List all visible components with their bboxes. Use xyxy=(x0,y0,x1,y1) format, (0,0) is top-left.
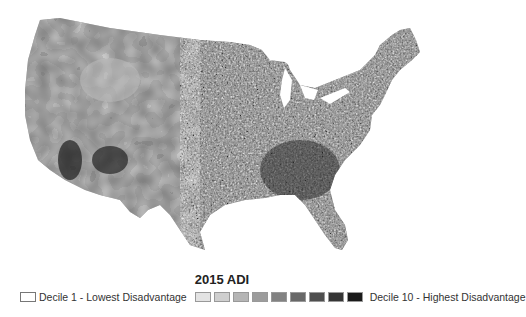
legend-swatch-decile-7 xyxy=(290,292,306,302)
decile-legend: Decile 1 - Lowest Disadvantage Decile 10… xyxy=(20,290,526,304)
map-title: 2015 ADI xyxy=(0,272,444,287)
legend-swatch-decile-8 xyxy=(309,292,325,302)
legend-high-label: Decile 10 - Highest Disadvantage xyxy=(370,291,526,303)
legend-swatch-decile-3 xyxy=(214,292,230,302)
us-adi-choropleth-map xyxy=(0,0,444,270)
legend-low-label: Decile 1 - Lowest Disadvantage xyxy=(39,291,187,303)
legend-swatch-decile-9 xyxy=(328,292,344,302)
legend-swatch-decile-5 xyxy=(252,292,268,302)
legend-swatch-decile-6 xyxy=(271,292,287,302)
legend-swatch-decile-10 xyxy=(347,292,363,302)
legend-swatch-decile-4 xyxy=(233,292,249,302)
legend-swatch-decile-1 xyxy=(20,292,36,302)
legend-swatch-decile-2 xyxy=(195,292,211,302)
